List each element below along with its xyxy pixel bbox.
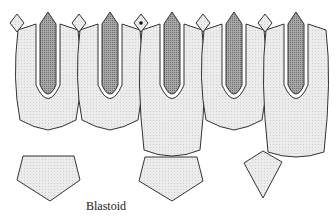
radial-plate-2 (77, 12, 142, 130)
ambulacrum-2 (102, 12, 118, 94)
diagram-caption: Blastoid (86, 199, 126, 214)
ambulacrum-3 (164, 12, 180, 94)
basal-pentagon-2 (139, 157, 203, 201)
ambulacrum-1 (40, 12, 56, 94)
radial-plate-3 (139, 12, 204, 156)
radial-plate-4 (201, 12, 266, 130)
radial-plate-1 (15, 12, 80, 130)
ambulacrum-5 (288, 12, 304, 94)
ambulacrum-4 (226, 12, 242, 94)
radial-plate-5 (263, 12, 328, 157)
anal-marker-dot (139, 21, 143, 25)
basal-pentagon-1 (17, 156, 80, 201)
basal-kite (244, 151, 282, 198)
blastoid-plate-diagram (0, 0, 336, 217)
basal-plates (17, 151, 282, 201)
